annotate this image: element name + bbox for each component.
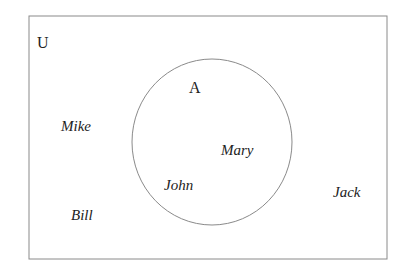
set-a-label: A (189, 79, 201, 96)
element-mary: Mary (220, 142, 254, 158)
element-mike: Mike (60, 118, 91, 134)
universe-label: U (37, 34, 49, 51)
element-jack: Jack (333, 184, 361, 200)
element-john: John (164, 177, 193, 193)
element-bill: Bill (71, 207, 93, 223)
venn-diagram: U A Mary John Mike Bill Jack (0, 0, 408, 270)
